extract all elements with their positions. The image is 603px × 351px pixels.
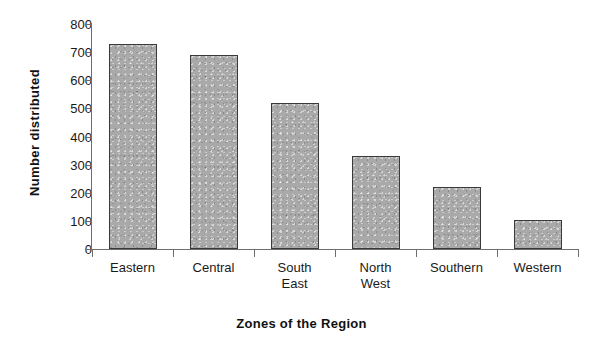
bar-eastern: [109, 44, 157, 249]
x-category-label-line: West: [335, 276, 416, 292]
bar-central: [190, 55, 238, 249]
x-category-label-line: North: [335, 260, 416, 276]
y-tick-mark: [86, 137, 92, 138]
x-category-label: NorthWest: [335, 260, 416, 292]
bar-southern: [433, 187, 481, 249]
y-tick-mark: [86, 193, 92, 194]
x-axis-title: Zones of the Region: [0, 316, 603, 331]
x-category-label: SouthEast: [254, 260, 335, 292]
y-tick-mark: [86, 24, 92, 25]
y-axis-ticks: 0100200300400500600700800: [0, 0, 92, 351]
plot-area: [92, 24, 578, 249]
x-category-label-line: South: [254, 260, 335, 276]
x-category-label: Southern: [416, 260, 497, 276]
x-category-label-line: Southern: [416, 260, 497, 276]
bar-chart: Number distributed 010020030040050060070…: [0, 0, 603, 351]
x-category-label-line: Central: [173, 260, 254, 276]
y-tick-mark: [86, 165, 92, 166]
bar-south-east: [271, 103, 319, 249]
x-category-label: Western: [497, 260, 578, 276]
bar-western: [514, 220, 562, 249]
x-tick-mark: [254, 250, 255, 257]
x-tick-mark: [497, 250, 498, 257]
x-tick-mark: [92, 250, 93, 257]
bar-north-west: [352, 156, 400, 249]
x-category-label-line: Eastern: [92, 260, 173, 276]
x-category-label-line: East: [254, 276, 335, 292]
y-tick-mark: [86, 221, 92, 222]
x-tick-mark: [335, 250, 336, 257]
y-tick-mark: [86, 80, 92, 81]
x-tick-mark: [578, 250, 579, 257]
x-tick-mark: [173, 250, 174, 257]
x-category-label-line: Western: [497, 260, 578, 276]
y-tick-mark: [86, 108, 92, 109]
x-category-label: Central: [173, 260, 254, 276]
y-tick-mark: [86, 52, 92, 53]
x-tick-mark: [416, 250, 417, 257]
x-category-label: Eastern: [92, 260, 173, 276]
